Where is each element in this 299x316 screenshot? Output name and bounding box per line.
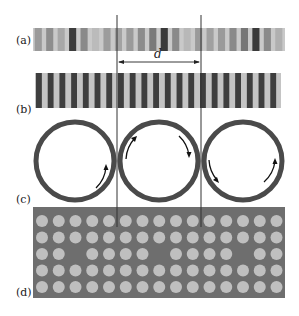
dot: [103, 281, 115, 293]
stripe: [235, 73, 241, 108]
stripe: [247, 73, 253, 108]
dot: [254, 281, 266, 293]
stripe: [106, 73, 112, 108]
dot: [120, 215, 132, 227]
arrow-right-icon: [194, 60, 200, 64]
dot: [70, 215, 82, 227]
figure-canvas: [0, 0, 299, 316]
dot: [53, 232, 65, 244]
panel-b-grating: [35, 73, 281, 108]
dot: [103, 248, 115, 260]
dot: [220, 265, 232, 277]
dot: [204, 232, 216, 244]
stripe: [259, 73, 265, 108]
dot: [170, 215, 182, 227]
stripe: [207, 28, 214, 51]
dot: [271, 232, 283, 244]
stripe: [223, 73, 229, 108]
dot: [271, 248, 283, 260]
dot: [36, 215, 48, 227]
stripe: [48, 73, 54, 108]
dot: [220, 215, 232, 227]
dot: [254, 248, 266, 260]
ring-3: [204, 122, 282, 200]
dot: [204, 265, 216, 277]
dot: [254, 232, 266, 244]
stripe: [115, 28, 122, 51]
dot: [204, 248, 216, 260]
dot: [220, 248, 232, 260]
dot: [170, 265, 182, 277]
stripe: [118, 73, 124, 108]
dot: [36, 248, 48, 260]
dot: [187, 281, 199, 293]
arrow-head-icon: [213, 177, 219, 183]
dot: [36, 281, 48, 293]
panel-label-a: (a): [16, 34, 31, 47]
dot: [237, 215, 249, 227]
dot: [237, 265, 249, 277]
arrow-head-icon: [273, 158, 278, 164]
arrow-head-icon: [104, 164, 109, 170]
dot: [170, 281, 182, 293]
panel-label-c: (c): [16, 193, 31, 206]
dot: [187, 215, 199, 227]
dot: [271, 265, 283, 277]
stripe: [46, 28, 53, 51]
dot: [187, 232, 199, 244]
stripe: [103, 28, 110, 51]
stripe: [172, 28, 179, 51]
stripe: [212, 73, 218, 108]
stripe: [71, 73, 77, 108]
dot: [36, 265, 48, 277]
dot: [103, 215, 115, 227]
dot: [86, 232, 98, 244]
dot: [187, 265, 199, 277]
dot: [254, 265, 266, 277]
stripe: [36, 73, 42, 108]
dot: [53, 265, 65, 277]
stripe: [218, 28, 225, 51]
dot: [70, 281, 82, 293]
stripe: [83, 73, 89, 108]
dot: [103, 265, 115, 277]
stripe: [69, 28, 76, 51]
stripe: [275, 28, 282, 51]
dot: [220, 232, 232, 244]
stripe: [264, 28, 271, 51]
dot: [153, 232, 165, 244]
dot: [103, 232, 115, 244]
dot: [204, 281, 216, 293]
dot: [53, 215, 65, 227]
dot: [120, 281, 132, 293]
dot: [36, 232, 48, 244]
dot: [70, 232, 82, 244]
dot: [120, 232, 132, 244]
dot: [137, 232, 149, 244]
dot: [254, 215, 266, 227]
ring-2: [120, 122, 198, 200]
stripe: [188, 73, 194, 108]
dot: [86, 281, 98, 293]
dot: [237, 281, 249, 293]
stripe: [165, 73, 171, 108]
dot: [137, 248, 149, 260]
stripe: [270, 73, 276, 108]
dot: [53, 281, 65, 293]
panel-d-dot-array: [33, 207, 285, 298]
dot: [153, 265, 165, 277]
arrow-icon: [264, 161, 275, 182]
panel-label-b: (b): [16, 103, 32, 116]
period-label: d: [154, 47, 162, 61]
stripe: [184, 28, 191, 51]
stripe: [229, 28, 236, 51]
dot: [237, 232, 249, 244]
dot: [120, 248, 132, 260]
ring-1: [36, 122, 114, 200]
stripe: [92, 28, 99, 51]
dot: [271, 281, 283, 293]
arrow-left-icon: [118, 60, 124, 64]
stripe: [35, 28, 42, 51]
panel-label-d: (d): [16, 286, 32, 299]
dot: [187, 248, 199, 260]
